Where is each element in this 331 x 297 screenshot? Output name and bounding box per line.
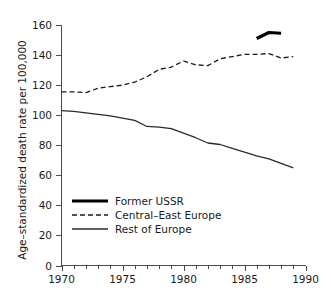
y-tick-label: 100 xyxy=(32,109,52,121)
y-tick-label: 40 xyxy=(39,199,52,211)
x-tick-label: 1990 xyxy=(292,273,319,285)
y-tick-label: 60 xyxy=(39,169,52,181)
x-tick-label: 1980 xyxy=(170,273,197,285)
y-tick-label: 80 xyxy=(39,139,52,151)
series-line xyxy=(257,33,281,39)
chart-page: 020406080100120140160 197019751980198519… xyxy=(0,0,331,297)
y-tick-marks xyxy=(56,26,62,267)
x-tick-marks xyxy=(63,266,307,272)
y-tick-label: 120 xyxy=(32,79,52,91)
data-series-group xyxy=(62,33,294,168)
y-tick-labels: 020406080100120140160 xyxy=(32,19,52,272)
y-axis: 020406080100120140160 xyxy=(32,19,62,272)
legend-label: Central–East Europe xyxy=(115,209,221,221)
y-tick-label: 20 xyxy=(39,229,52,241)
y-tick-label: 140 xyxy=(32,49,52,61)
series-line xyxy=(62,111,294,168)
series-line xyxy=(62,54,294,93)
legend-label: Rest of Europe xyxy=(115,223,192,235)
x-tick-label: 1975 xyxy=(109,273,136,285)
line-chart: 020406080100120140160 197019751980198519… xyxy=(0,0,331,297)
x-tick-label: 1985 xyxy=(231,273,258,285)
y-axis-title: Age–standardized death rate per 100,000 xyxy=(16,40,28,260)
y-tick-label: 0 xyxy=(45,260,52,272)
x-tick-labels: 19701975198019851990 xyxy=(48,273,319,285)
x-axis: 19701975198019851990 xyxy=(48,266,319,286)
chart-legend: Former USSRCentral–East EuropeRest of Eu… xyxy=(72,195,221,235)
x-tick-label: 1970 xyxy=(48,273,75,285)
legend-label: Former USSR xyxy=(115,195,184,207)
y-tick-label: 160 xyxy=(32,19,52,31)
